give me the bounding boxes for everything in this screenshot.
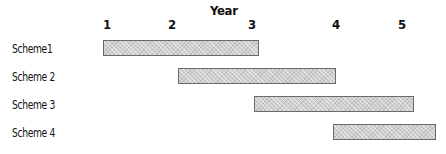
axis-title: Year xyxy=(210,3,238,18)
row-label-scheme-4: Scheme 4 xyxy=(12,126,55,140)
x-tick-3: 3 xyxy=(248,17,256,32)
bar-scheme-4 xyxy=(333,124,436,140)
row-label-scheme-2: Scheme 2 xyxy=(12,70,55,84)
row-label-scheme-1: Scheme1 xyxy=(12,42,52,56)
x-tick-1: 1 xyxy=(103,17,111,32)
x-tick-5: 5 xyxy=(398,17,406,32)
bar-scheme-1 xyxy=(103,40,259,56)
row-label-scheme-3: Scheme 3 xyxy=(12,98,55,112)
bar-scheme-3 xyxy=(254,96,414,112)
x-tick-4: 4 xyxy=(332,17,340,32)
bar-scheme-2 xyxy=(178,68,336,84)
x-tick-2: 2 xyxy=(168,17,176,32)
